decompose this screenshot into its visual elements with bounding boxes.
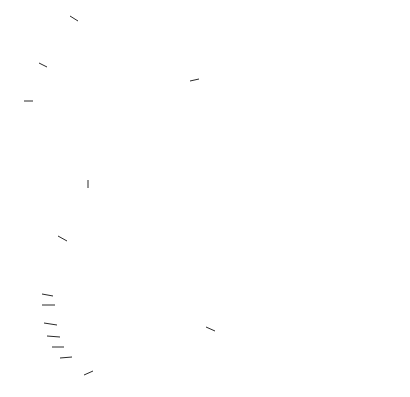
- bottom-pie-leader-lines: [0, 205, 410, 397]
- top-pie-figure: [0, 0, 410, 205]
- top-pie-leader-lines: [0, 0, 410, 205]
- bottom-pie-figure: [0, 205, 410, 397]
